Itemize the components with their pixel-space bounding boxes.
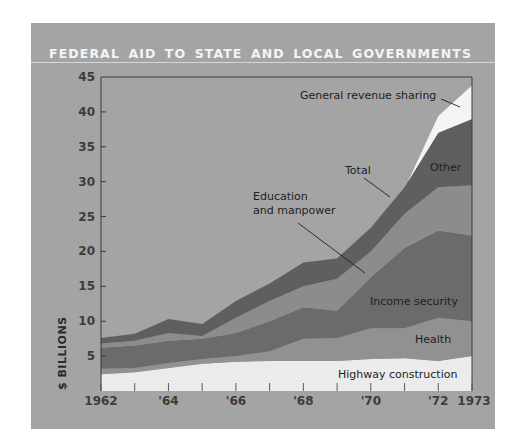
label-total: Total [344, 164, 371, 177]
label-health: Health [415, 333, 451, 346]
label-other: Other [430, 161, 462, 174]
y-tick-label: 20 [78, 244, 95, 258]
label-education: Education [253, 190, 308, 203]
y-tick-label: 35 [78, 140, 95, 154]
y-tick-label: 30 [78, 175, 95, 189]
label-and-manpower: and manpower [253, 204, 336, 217]
y-axis-label: $ BILLIONS [56, 316, 69, 390]
y-tick-label: 40 [78, 105, 95, 119]
x-tick-label: '66 [226, 394, 246, 408]
x-tick-label: 1973 [457, 394, 490, 408]
x-tick-label: 1962 [84, 394, 117, 408]
x-tick-label: '64 [158, 394, 178, 408]
stacked-area-chart: 510152025303540451962'64'66'68'70'721973… [0, 0, 519, 446]
leader-total [364, 178, 390, 197]
x-tick-label: '72 [428, 394, 448, 408]
label-highway-construction: Highway construction [338, 368, 457, 381]
y-tick-label: 15 [78, 279, 95, 293]
y-tick-label: 10 [78, 314, 95, 328]
y-tick-label: 45 [78, 70, 95, 84]
y-tick-label: 25 [78, 210, 95, 224]
x-tick-label: '68 [293, 394, 313, 408]
x-tick-label: '70 [361, 394, 381, 408]
label-income-security: Income security [370, 295, 458, 308]
y-tick-label: 5 [87, 349, 95, 363]
label-general-revenue-sharing: General revenue sharing [300, 89, 436, 102]
